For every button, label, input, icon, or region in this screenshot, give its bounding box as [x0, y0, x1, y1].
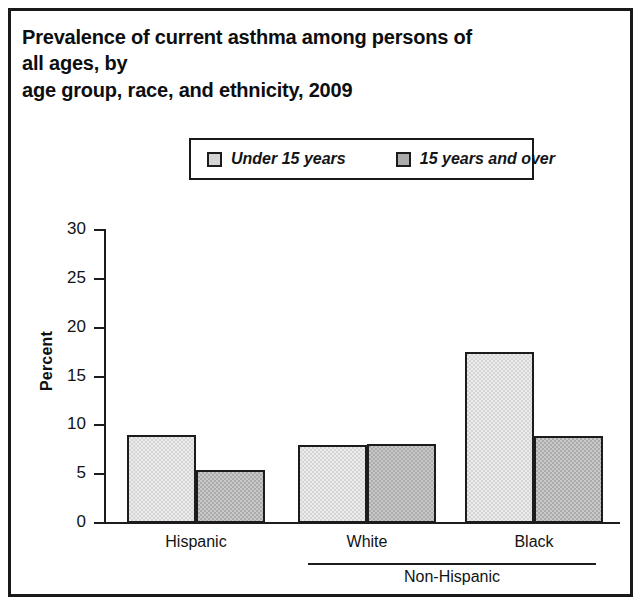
plot-area: 0 5 10 15 20 25 30 Percent Hispanic Whit…: [0, 0, 642, 605]
group-label-non-hispanic: Non-Hispanic: [308, 568, 596, 586]
y-tick-mark: [94, 278, 104, 280]
bar-hispanic-under-15: [127, 435, 196, 523]
x-tick-label-white: White: [287, 533, 447, 551]
y-tick-label: 25: [40, 268, 86, 288]
y-tick-label: 5: [40, 463, 86, 483]
group-bracket-line: [308, 563, 596, 565]
bar-black-15-and-over: [534, 436, 603, 523]
y-tick-mark: [94, 229, 104, 231]
y-axis-label: Percent: [38, 311, 56, 411]
bar-white-15-and-over: [367, 444, 436, 523]
bar-black-under-15: [465, 352, 534, 523]
bar-white-under-15: [298, 445, 367, 523]
x-tick-label-black: Black: [454, 533, 614, 551]
y-tick-label: 10: [40, 414, 86, 434]
y-tick-label: 0: [40, 512, 86, 532]
chart-figure: Prevalence of current asthma among perso…: [0, 0, 642, 605]
y-axis-line: [104, 229, 106, 524]
y-tick-mark: [94, 473, 104, 475]
y-tick-mark: [94, 376, 104, 378]
bar-hispanic-15-and-over: [196, 470, 265, 523]
x-tick-label-hispanic: Hispanic: [116, 533, 276, 551]
y-tick-label: 30: [40, 219, 86, 239]
y-tick-mark: [94, 327, 104, 329]
y-tick-mark: [94, 522, 104, 524]
y-tick-mark: [94, 424, 104, 426]
